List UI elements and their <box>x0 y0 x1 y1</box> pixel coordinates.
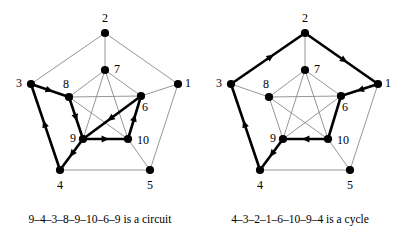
direction-arrow-icon <box>45 86 53 92</box>
vertices-group: 12345678910 <box>16 11 191 192</box>
graph-svg-left: 12345678910 <box>0 0 200 205</box>
graph-vertex[interactable] <box>146 166 154 174</box>
vertex-label: 1 <box>385 76 391 90</box>
vertex-label: 5 <box>147 178 153 192</box>
graph-panel-right: 12345678910 <box>200 0 400 205</box>
graph-edge <box>283 70 305 139</box>
graph-edge <box>150 84 178 170</box>
vertex-label: 10 <box>337 133 349 147</box>
caption-left: 9–4–3–8–9–10–6–9 is a circuit <box>0 206 200 232</box>
graph-edge <box>269 70 305 97</box>
graph-edge <box>305 70 328 139</box>
graph-edge <box>141 84 178 96</box>
graph-edge <box>105 70 128 139</box>
graph-svg-right: 12345678910 <box>200 0 400 205</box>
vertex-label: 9 <box>270 131 276 145</box>
graph-vertex[interactable] <box>324 135 332 143</box>
direction-arrow-icon <box>42 120 48 128</box>
graph-vertex[interactable] <box>79 135 87 143</box>
vertex-label: 6 <box>342 100 348 114</box>
direction-arrow-icon <box>242 120 248 128</box>
graph-vertex[interactable] <box>174 80 182 88</box>
vertex-label: 7 <box>114 62 120 76</box>
graph-vertex[interactable] <box>27 80 35 88</box>
vertices-group: 12345678910 <box>216 11 391 192</box>
graph-edge <box>105 33 178 84</box>
graph-edge <box>69 70 105 97</box>
graph-edge <box>283 96 341 139</box>
vertex-label: 4 <box>57 178 63 192</box>
graph-vertex[interactable] <box>65 93 73 101</box>
caption-right: 4–3–2–1–6–10–9–4 is a cycle <box>200 206 400 232</box>
vertex-label: 1 <box>185 76 191 90</box>
direction-arrow-icon <box>357 85 365 91</box>
graph-vertex[interactable] <box>101 66 109 74</box>
vertex-label: 3 <box>16 76 22 90</box>
graph-vertex[interactable] <box>265 93 273 101</box>
graph-edge <box>269 97 328 139</box>
graph-edge <box>305 70 341 96</box>
vertex-label: 4 <box>257 178 263 192</box>
graph-vertex[interactable] <box>346 166 354 174</box>
vertex-label: 3 <box>216 76 222 90</box>
figure-container: 12345678910 12345678910 9–4–3–8–9–10–6–9… <box>0 0 400 237</box>
graph-vertex[interactable] <box>227 80 235 88</box>
vertex-label: 10 <box>137 133 149 147</box>
vertex-label: 7 <box>314 62 320 76</box>
vertex-label: 2 <box>102 11 108 25</box>
vertex-label: 8 <box>63 77 69 91</box>
graph-vertex[interactable] <box>256 166 264 174</box>
vertex-label: 9 <box>70 131 76 145</box>
graph-vertex[interactable] <box>124 135 132 143</box>
graph-vertex[interactable] <box>279 135 287 143</box>
graph-edge <box>105 70 141 96</box>
direction-arrow-icon <box>102 136 110 143</box>
graph-vertex[interactable] <box>101 29 109 37</box>
graph-vertex[interactable] <box>301 29 309 37</box>
graph-panel-left: 12345678910 <box>0 0 200 205</box>
direction-arrow-icon <box>302 136 310 143</box>
graph-vertex[interactable] <box>56 166 64 174</box>
vertex-label: 5 <box>347 178 353 192</box>
graph-edge <box>69 97 128 139</box>
vertex-label: 8 <box>263 77 269 91</box>
direction-arrow-icon <box>130 114 137 122</box>
graph-edge <box>83 70 105 139</box>
vertex-label: 6 <box>142 100 148 114</box>
graph-edge <box>350 84 378 170</box>
direction-arrow-icon <box>72 113 78 121</box>
graph-edge <box>69 96 141 97</box>
graph-vertex[interactable] <box>374 80 382 88</box>
highlighted-path-group <box>231 33 378 170</box>
graph-edge <box>269 96 341 97</box>
vertex-label: 2 <box>302 11 308 25</box>
graph-vertex[interactable] <box>301 66 309 74</box>
